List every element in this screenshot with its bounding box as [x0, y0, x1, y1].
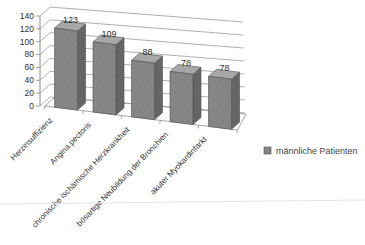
- category-tick-0: [44, 106, 45, 109]
- legend: männliche Patienten: [264, 146, 358, 156]
- bar-2-side-face: [155, 56, 163, 120]
- y-axis-label-80: 80: [25, 49, 35, 59]
- bar-value-3: 78: [181, 58, 191, 68]
- category-tick-2: [121, 116, 122, 119]
- bar-1: [93, 35, 124, 115]
- legend-swatch: [264, 147, 271, 154]
- bar-4-side-face: [232, 72, 240, 129]
- bar-4: [209, 69, 240, 129]
- bar-2: [132, 53, 163, 119]
- category-tick-3: [160, 120, 161, 123]
- category-label-1: Angina pectoris: [48, 120, 93, 166]
- y-axis-label-120: 120: [20, 24, 34, 34]
- category-label-3: bösartige Neubildung der Bronchien: [75, 130, 170, 228]
- bar-0-side-face: [78, 24, 86, 110]
- bar-chart-canvas: 020406080100120140 123109887878 Herzinsu…: [0, 0, 365, 245]
- bar-3-side-face: [193, 67, 201, 124]
- bar-1-side-face: [116, 38, 124, 115]
- legend-label: männliche Patienten: [276, 146, 358, 156]
- chart-figure: 020406080100120140 123109887878 Herzinsu…: [0, 0, 365, 245]
- bar-value-2: 88: [142, 47, 152, 57]
- y-axis-label-40: 40: [25, 75, 35, 85]
- value-axis: 020406080100120140: [20, 11, 40, 111]
- y-axis-label-140: 140: [20, 11, 34, 21]
- bar-1-front-face: [93, 42, 116, 115]
- bar-3: [170, 64, 201, 124]
- category-tick-5: [237, 130, 238, 133]
- bar-value-0: 123: [63, 15, 78, 25]
- bar-0-front-face: [55, 28, 78, 110]
- bars: [55, 21, 240, 129]
- bar-0: [55, 21, 86, 110]
- category-tick-4: [198, 125, 199, 128]
- y-axis-label-100: 100: [20, 37, 34, 47]
- bar-value-4: 78: [219, 63, 229, 73]
- y-axis-label-0: 0: [29, 101, 34, 111]
- y-axis-label-20: 20: [25, 88, 35, 98]
- bar-2-front-face: [132, 60, 155, 119]
- bar-4-front-face: [209, 76, 232, 129]
- category-tick-1: [83, 111, 84, 114]
- bar-3-front-face: [170, 71, 193, 124]
- y-axis-label-60: 60: [25, 62, 35, 72]
- bar-value-1: 109: [101, 29, 116, 39]
- category-labels: HerzinsuffizienzAngina pectorischronisch…: [9, 116, 209, 230]
- category-label-0: Herzinsuffizienz: [9, 116, 55, 163]
